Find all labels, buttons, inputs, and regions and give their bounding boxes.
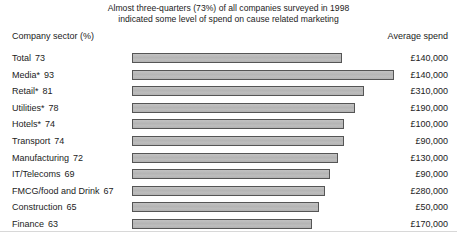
chart-row: Media*93£140,000 — [0, 69, 457, 86]
chart-title-line-1: Almost three-quarters (73%) of all compa… — [0, 3, 457, 14]
bar-track — [132, 186, 452, 197]
chart-row: Manufacturing72£130,000 — [0, 152, 457, 169]
row-average-spend-value: £170,000 — [410, 218, 448, 230]
bar — [132, 103, 355, 113]
row-average-spend-value: £140,000 — [410, 69, 448, 81]
row-sector-label: FMCG/food and Drink67 — [12, 185, 114, 197]
bar — [132, 53, 342, 63]
sector-percentage: 93 — [44, 70, 54, 80]
sector-name: IT/Telecoms — [12, 169, 61, 179]
chart-row: IT/Telecoms69£90,000 — [0, 168, 457, 185]
column-headers: Company sector (%) Average spend — [0, 31, 457, 45]
row-sector-label: Media*93 — [12, 69, 54, 81]
row-average-spend-value: £50,000 — [415, 201, 448, 213]
sector-name: Transport — [12, 136, 50, 146]
row-average-spend-value: £90,000 — [415, 168, 448, 180]
sector-name: Media* — [12, 70, 40, 80]
row-average-spend-value: £140,000 — [410, 52, 448, 64]
sector-percentage: 72 — [73, 153, 83, 163]
sector-name: Utilities* — [12, 103, 45, 113]
row-average-spend-value: £130,000 — [410, 152, 448, 164]
sector-percentage: 74 — [54, 136, 64, 146]
chart-row: Hotels*74£100,000 — [0, 118, 457, 135]
bar — [132, 86, 364, 96]
bar-track — [132, 86, 452, 97]
row-average-spend-value: £310,000 — [410, 85, 448, 97]
row-sector-label: Utilities*78 — [12, 102, 59, 114]
sector-percentage: 69 — [65, 169, 75, 179]
row-sector-label: IT/Telecoms69 — [12, 168, 75, 180]
sector-name: Construction — [12, 202, 63, 212]
row-sector-label: Retail*81 — [12, 85, 53, 97]
row-sector-label: Total73 — [12, 52, 45, 64]
sector-percentage: 78 — [49, 103, 59, 113]
sector-percentage: 63 — [48, 219, 58, 229]
bar-track — [132, 136, 452, 147]
sector-name: FMCG/food and Drink — [12, 186, 100, 196]
row-average-spend-value: £90,000 — [415, 135, 448, 147]
row-sector-label: Transport74 — [12, 135, 64, 147]
chart-row: Finance63£170,000 — [0, 218, 457, 235]
sector-name: Total — [12, 53, 31, 63]
bar — [132, 169, 330, 179]
bar — [132, 70, 394, 80]
sector-percentage: 65 — [67, 202, 77, 212]
bar-track — [132, 103, 452, 114]
sector-percentage: 73 — [35, 53, 45, 63]
sector-name: Finance — [12, 219, 44, 229]
bar-track — [132, 153, 452, 164]
chart-row: Transport74£90,000 — [0, 135, 457, 152]
chart-rows: Total73£140,000Media*93£140,000Retail*81… — [0, 52, 457, 235]
sector-name: Hotels* — [12, 119, 41, 129]
row-sector-label: Construction65 — [12, 201, 77, 213]
baseline-rule — [0, 231, 457, 232]
bar-track — [132, 219, 452, 230]
bar-track — [132, 202, 452, 213]
sector-percentage: 67 — [104, 186, 114, 196]
column-header-company-sector: Company sector (%) — [12, 31, 94, 41]
bar — [132, 153, 338, 163]
chart-row: Total73£140,000 — [0, 52, 457, 69]
bar-track — [132, 53, 452, 64]
chart-row: FMCG/food and Drink67£280,000 — [0, 185, 457, 202]
row-sector-label: Manufacturing72 — [12, 152, 83, 164]
chart-title: Almost three-quarters (73%) of all compa… — [0, 3, 457, 25]
sector-name: Retail* — [12, 86, 39, 96]
bar — [132, 119, 344, 129]
chart-row: Retail*81£310,000 — [0, 85, 457, 102]
chart-row: Utilities*78£190,000 — [0, 102, 457, 119]
sector-name: Manufacturing — [12, 153, 69, 163]
row-average-spend-value: £100,000 — [410, 118, 448, 130]
bar — [132, 136, 344, 146]
bar — [132, 202, 319, 212]
bar — [132, 219, 312, 229]
row-average-spend-value: £280,000 — [410, 185, 448, 197]
row-sector-label: Finance63 — [12, 218, 58, 230]
sector-percentage: 81 — [43, 86, 53, 96]
bar — [132, 186, 325, 196]
chart-row: Construction65£50,000 — [0, 201, 457, 218]
row-sector-label: Hotels*74 — [12, 118, 55, 130]
chart-title-line-2: indicated some level of spend on cause r… — [0, 14, 457, 25]
column-header-average-spend: Average spend — [388, 31, 448, 41]
sector-percentage: 74 — [45, 119, 55, 129]
row-average-spend-value: £190,000 — [410, 102, 448, 114]
cause-related-marketing-bar-chart: Almost three-quarters (73%) of all compa… — [0, 0, 457, 243]
bar-track — [132, 169, 452, 180]
bar-track — [132, 70, 452, 81]
bar-track — [132, 119, 452, 130]
